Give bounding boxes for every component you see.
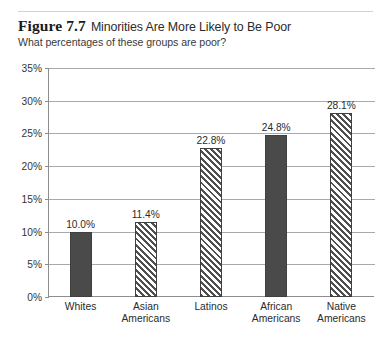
bar-value-label: 24.8% (262, 122, 291, 133)
bar-value-label: 10.0% (66, 219, 95, 230)
y-axis-tick-label: 15% (22, 193, 42, 204)
y-axis-tick-label: 0% (27, 292, 42, 303)
bar[interactable] (330, 113, 352, 297)
x-axis-label-line: Native (309, 301, 374, 313)
x-axis-label-line: Latinos (178, 301, 243, 313)
bar[interactable] (135, 222, 157, 297)
bars-layer: 10.0%11.4%22.8%24.8%28.1% (48, 68, 374, 297)
x-axis-label-line: Americans (309, 313, 374, 325)
bar-group[interactable]: 10.0% (48, 68, 113, 297)
y-axis-tick-label: 25% (22, 128, 42, 139)
x-axis-label-line: Americans (113, 313, 178, 325)
bar-group[interactable]: 22.8% (178, 68, 243, 297)
figure-container: Figure 7.7Minorities Are More Likely to … (0, 0, 391, 337)
bar[interactable] (200, 148, 222, 297)
bar-group[interactable]: 24.8% (244, 68, 309, 297)
bar-value-label: 22.8% (197, 135, 226, 146)
x-axis-label: NativeAmericans (309, 301, 374, 326)
bar-value-label: 28.1% (327, 100, 356, 111)
y-axis-tick-label: 20% (22, 161, 42, 172)
bar[interactable] (265, 135, 287, 297)
x-axis-category-labels: WhitesAsianAmericansLatinosAfricanAmeric… (48, 301, 374, 335)
y-axis-tick-labels: 0%5%10%15%20%25%30%35% (8, 68, 42, 297)
x-axis-label-line: Americans (244, 313, 309, 325)
x-axis-label-line: African (244, 301, 309, 313)
bar-group[interactable]: 28.1% (309, 68, 374, 297)
bar-group[interactable]: 11.4% (113, 68, 178, 297)
y-axis-tick-label: 5% (27, 259, 42, 270)
bar[interactable] (70, 232, 92, 297)
x-axis-label: Latinos (178, 301, 243, 313)
x-axis-label: Whites (48, 301, 113, 313)
bar-value-label: 11.4% (132, 209, 160, 220)
y-axis-tick-label: 30% (22, 95, 42, 106)
y-axis-tick-mark (45, 297, 49, 298)
chart-plot: 0%5%10%15%20%25%30%35% 10.0%11.4%22.8%24… (0, 0, 391, 337)
x-axis-label-line: Asian (113, 301, 178, 313)
x-axis-label-line: Whites (48, 301, 113, 313)
x-axis-label: AsianAmericans (113, 301, 178, 326)
y-axis-tick-label: 35% (22, 63, 42, 74)
y-axis-tick-label: 10% (22, 226, 42, 237)
x-axis-label: AfricanAmericans (244, 301, 309, 326)
